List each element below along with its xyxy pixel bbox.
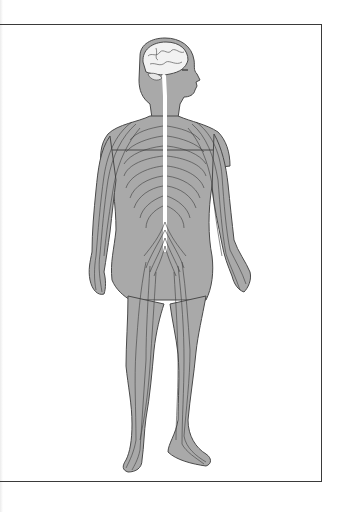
trunk (108, 150, 216, 300)
right-leg (168, 296, 211, 466)
left-leg (123, 296, 164, 472)
nervous-system-figure (0, 0, 342, 512)
